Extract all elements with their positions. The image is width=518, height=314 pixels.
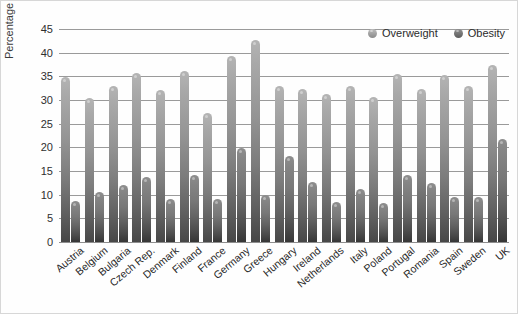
bar-group <box>251 29 270 242</box>
bar-group <box>393 29 412 242</box>
bar-overweight <box>180 71 189 242</box>
bar-overweight <box>227 56 236 242</box>
bar-overweight <box>322 94 331 242</box>
bar-overweight <box>132 73 141 242</box>
bar-obesity <box>450 197 459 242</box>
gridline-0 <box>59 242 509 243</box>
obesity-swatch-icon <box>454 29 463 38</box>
bar-group <box>132 29 151 242</box>
bar-obesity <box>261 195 270 242</box>
bar-group <box>369 29 388 242</box>
bar-overweight <box>109 86 118 242</box>
y-tick-label: 20 <box>27 141 53 153</box>
y-tick-label: 15 <box>27 165 53 177</box>
bar-overweight <box>251 40 260 242</box>
bar-series-layer <box>59 29 509 242</box>
bar-obesity <box>379 203 388 242</box>
legend-label: Obesity <box>468 27 505 39</box>
bar-overweight <box>369 97 378 242</box>
bar-overweight <box>488 65 497 242</box>
bar-obesity <box>308 182 317 242</box>
bar-group <box>440 29 459 242</box>
y-tick-label: 40 <box>27 47 53 59</box>
bar-overweight <box>85 98 94 242</box>
y-tick-label: 25 <box>27 118 53 130</box>
bar-group <box>227 29 246 242</box>
y-tick-label: 45 <box>27 23 53 35</box>
bar-obesity <box>119 185 128 242</box>
bar-overweight <box>203 113 212 242</box>
bar-obesity <box>285 156 294 242</box>
bar-obesity <box>142 177 151 242</box>
bar-group <box>109 29 128 242</box>
bar-obesity <box>71 201 80 242</box>
bar-obesity <box>213 199 222 242</box>
bar-group <box>464 29 483 242</box>
bar-group <box>298 29 317 242</box>
y-tick-label: 5 <box>27 212 53 224</box>
bar-overweight <box>346 86 355 242</box>
y-tick-label: 35 <box>27 70 53 82</box>
legend-item-overweight[interactable]: Overweight <box>368 27 438 39</box>
bar-overweight <box>393 74 402 242</box>
bar-group <box>275 29 294 242</box>
bar-overweight <box>464 86 473 242</box>
bar-group <box>322 29 341 242</box>
plot-area <box>59 29 509 242</box>
bar-group <box>61 29 80 242</box>
y-tick-label: 30 <box>27 94 53 106</box>
bar-group <box>417 29 436 242</box>
bar-group <box>488 29 507 242</box>
bar-overweight <box>156 90 165 242</box>
bar-overweight <box>440 75 449 242</box>
bar-group <box>85 29 104 242</box>
bar-group <box>346 29 365 242</box>
legend-item-obesity[interactable]: Obesity <box>454 27 505 39</box>
y-tick-label: 0 <box>27 236 53 248</box>
bar-group <box>203 29 222 242</box>
x-tick-label: UK <box>493 244 512 263</box>
bar-obesity <box>498 139 507 242</box>
bar-obesity <box>237 148 246 242</box>
bar-overweight <box>61 77 70 242</box>
bar-obesity <box>403 175 412 242</box>
bar-chart: Percentage population 051015202530354045… <box>0 0 518 314</box>
legend-label: Overweight <box>382 27 438 39</box>
bar-group <box>156 29 175 242</box>
y-tick-label: 10 <box>27 189 53 201</box>
bar-obesity <box>166 199 175 242</box>
bar-obesity <box>95 192 104 242</box>
bar-obesity <box>332 202 341 242</box>
bar-overweight <box>298 89 307 242</box>
bar-obesity <box>356 189 365 242</box>
x-axis-tick-labels: AustriaBelgiumBulgariaCzech Rep.DenmarkF… <box>59 244 509 314</box>
bar-obesity <box>190 175 199 242</box>
bar-obesity <box>427 183 436 242</box>
bar-obesity <box>474 197 483 242</box>
bar-overweight <box>275 86 284 242</box>
legend: OverweightObesity <box>368 27 505 39</box>
overweight-swatch-icon <box>368 29 377 38</box>
bar-group <box>180 29 199 242</box>
y-axis-title: Percentage population <box>3 0 17 89</box>
bar-overweight <box>417 89 426 242</box>
